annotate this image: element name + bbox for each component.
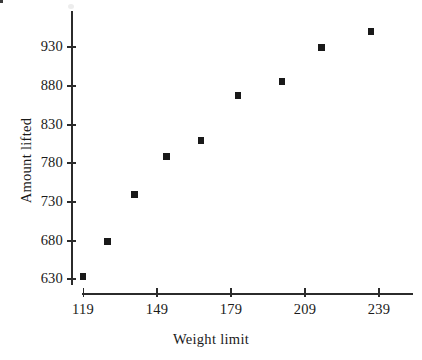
y-axis-tick <box>67 240 76 242</box>
data-point-marker <box>104 238 110 244</box>
x-axis-tick <box>156 288 158 297</box>
y-axis-tick <box>67 124 76 126</box>
x-tick-label: 179 <box>201 302 261 317</box>
data-point-marker <box>279 78 285 84</box>
x-axis-tick <box>230 288 232 297</box>
data-point-marker <box>163 153 169 159</box>
y-axis-tick <box>67 85 76 87</box>
y-axis-tick <box>67 278 76 280</box>
x-axis-tick <box>378 288 380 297</box>
data-point-marker <box>368 28 374 34</box>
scan-artifact <box>68 4 74 9</box>
y-axis-tick <box>67 46 76 48</box>
x-tick-label: 239 <box>349 302 409 317</box>
data-point-marker <box>198 137 204 143</box>
y-axis-tick <box>67 162 76 164</box>
y-axis-tick <box>67 201 76 203</box>
x-tick-label: 209 <box>275 302 335 317</box>
scatter-plot-figure: 930 880 830 780 730 680 630 119 149 179 … <box>0 0 422 360</box>
x-tick-label: 149 <box>127 302 187 317</box>
y-axis-line <box>71 11 73 285</box>
y-axis-title: Amount lifted <box>18 81 35 241</box>
data-point-marker <box>235 92 241 98</box>
x-axis-title: Weight limit <box>0 331 422 348</box>
x-tick-label: 119 <box>53 302 113 317</box>
x-axis-tick <box>83 288 85 297</box>
scan-artifact-tick <box>0 0 3 3</box>
x-axis-line <box>82 293 413 295</box>
x-axis-tick <box>304 288 306 297</box>
y-tick-label: 930 <box>3 39 63 54</box>
data-point-marker <box>80 273 86 279</box>
data-point-marker <box>318 44 324 50</box>
y-tick-label: 630 <box>3 271 63 286</box>
data-point-marker <box>131 191 137 197</box>
